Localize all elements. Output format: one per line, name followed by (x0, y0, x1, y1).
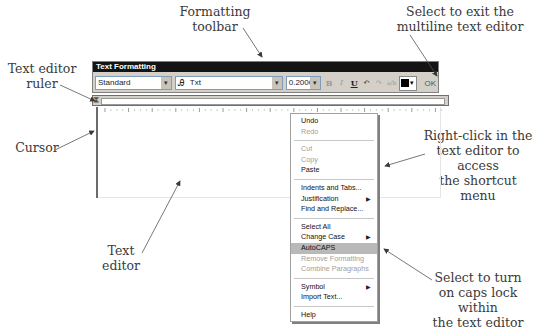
menu-item-label: Combine Paragraphs (301, 264, 369, 273)
font-select[interactable]: Ꭿ Txt ▾ (175, 76, 283, 90)
menu-item-label: Remove Formatting (301, 254, 364, 263)
menu-item-label: AutoCAPS (301, 243, 335, 252)
menu-item-label: Select All (301, 222, 331, 231)
chevron-down-icon[interactable]: ▾ (310, 77, 320, 89)
text-cursor (96, 107, 98, 198)
menu-item-combine-paragraphs[interactable]: Combine Paragraphs (291, 264, 377, 275)
chevron-down-icon[interactable]: ▾ (161, 77, 171, 89)
font-value: Txt (190, 78, 201, 87)
menu-separator (294, 278, 374, 279)
menu-item-redo[interactable]: Redo (291, 127, 377, 138)
menu-item-remove-formatting[interactable]: Remove Formatting (291, 254, 377, 265)
chevron-down-icon[interactable]: ▾ (409, 79, 415, 87)
callout-line: Select to turn (420, 270, 536, 285)
font-icon: Ꭿ (178, 77, 185, 89)
color-select[interactable]: ▾ (399, 76, 417, 91)
menu-item-label: Indents and Tabs... (301, 183, 362, 192)
menu-separator (294, 218, 374, 219)
text-height-select[interactable]: 0.2000 ▾ (286, 76, 322, 90)
callout-cursor: Cursor (12, 140, 62, 155)
shortcut-menu: UndoRedoCutCopyPasteIndents and Tabs...J… (290, 113, 378, 322)
menu-item-paste[interactable]: Paste (291, 165, 377, 176)
submenu-arrow-icon: ▶ (366, 282, 371, 293)
menu-item-undo[interactable]: Undo (291, 116, 377, 127)
toolbar-controls: Standard ▾ Ꭿ Txt ▾ 0.2000 ▾ B I U ↶ ↷ a/… (95, 75, 436, 91)
text-editor-ruler[interactable]: ⧗ (92, 95, 449, 106)
stack-icon[interactable]: a/b (387, 76, 397, 90)
menu-separator (294, 306, 374, 307)
menu-item-label: Find and Replace... (301, 204, 363, 213)
callout-line: Text editor (2, 61, 82, 76)
underline-button[interactable]: U (349, 76, 359, 90)
toolbar-title[interactable]: Text Formatting (93, 62, 438, 72)
undo-icon[interactable]: ↶ (362, 76, 372, 90)
italic-button[interactable]: I (337, 76, 347, 90)
callout-line: ruler (2, 76, 82, 91)
menu-item-help[interactable]: Help (291, 310, 377, 321)
menu-item-symbol[interactable]: Symbol▶ (291, 282, 377, 293)
menu-item-label: Redo (301, 127, 318, 136)
callout-line: editor (96, 258, 146, 273)
menu-separator (294, 179, 374, 180)
menu-item-label: Cut (301, 144, 312, 153)
menu-item-label: Justification (301, 194, 339, 203)
menu-item-label: Undo (301, 116, 318, 125)
callout-line: Select to exit the (385, 4, 535, 19)
ruler-scale (101, 98, 445, 105)
menu-item-import-text[interactable]: Import Text... (291, 292, 377, 303)
text-formatting-toolbar: Text Formatting Standard ▾ Ꭿ Txt ▾ 0.200… (92, 61, 439, 93)
submenu-arrow-icon: ▶ (366, 232, 371, 243)
color-swatch (401, 79, 409, 87)
menu-item-label: Help (301, 310, 316, 319)
menu-item-label: Symbol (301, 282, 325, 291)
callout-text-editor: Text editor (96, 243, 146, 273)
menu-item-autocaps[interactable]: AutoCAPS (291, 243, 377, 254)
callout-line: Cursor (12, 140, 62, 155)
menu-item-label: Copy (301, 155, 318, 164)
callout-autocaps: Select to turn on caps lock within the t… (420, 270, 536, 329)
menu-item-find-and-replace[interactable]: Find and Replace... (291, 204, 377, 215)
menu-item-indents-and-tabs[interactable]: Indents and Tabs... (291, 183, 377, 194)
text-style-value: Standard (98, 78, 130, 87)
callout-line: Text (96, 243, 146, 258)
menu-item-justification[interactable]: Justification▶ (291, 194, 377, 205)
menu-item-cut[interactable]: Cut (291, 144, 377, 155)
callout-ruler: Text editor ruler (2, 61, 82, 91)
indent-marker-icon[interactable]: ⧗ (93, 94, 101, 106)
ok-button[interactable]: OK (424, 79, 436, 88)
menu-item-label: Import Text... (301, 292, 342, 301)
callout-line: toolbar (160, 19, 270, 34)
menu-item-label: Change Case (301, 232, 345, 241)
menu-item-label: Paste (301, 165, 319, 174)
redo-icon[interactable]: ↷ (374, 76, 384, 90)
callout-line: on caps lock within (420, 285, 536, 315)
menu-item-change-case[interactable]: Change Case▶ (291, 232, 377, 243)
text-editor-area[interactable] (97, 107, 441, 198)
callout-line: Formatting (160, 4, 270, 19)
menu-item-copy[interactable]: Copy (291, 155, 377, 166)
text-style-select[interactable]: Standard ▾ (95, 76, 172, 90)
callout-line: the text editor (420, 315, 536, 329)
callout-line: multiline text editor (385, 19, 535, 34)
submenu-arrow-icon: ▶ (366, 194, 371, 205)
menu-separator (294, 140, 374, 141)
chevron-down-icon[interactable]: ▾ (272, 77, 282, 89)
callout-exit-editor: Select to exit the multiline text editor (385, 4, 535, 34)
callout-formatting-toolbar: Formatting toolbar (160, 4, 270, 34)
bold-button[interactable]: B (324, 76, 334, 90)
menu-item-select-all[interactable]: Select All (291, 222, 377, 233)
